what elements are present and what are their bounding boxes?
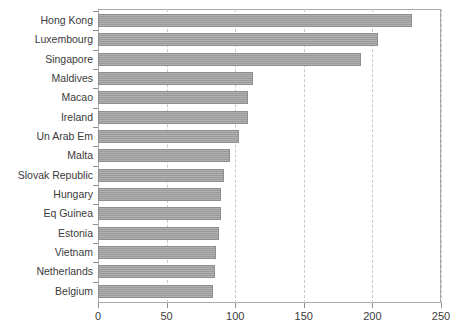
bar-luxembourg [98,33,378,46]
category-label-ireland: Ireland [61,111,93,124]
bar-estonia [98,227,219,240]
bar-netherlands [98,265,215,278]
bar-vietnam [98,246,216,259]
category-tick [93,243,98,244]
bar-slovak-republic [98,169,224,182]
bar-malta [98,149,230,162]
category-label-slovak-republic: Slovak Republic [18,169,93,182]
bar-un-arab-em [98,130,239,143]
value-tick-50 [167,303,168,308]
value-tick-label-250: 250 [432,310,450,323]
bar-belgium [98,285,213,298]
category-tick [93,30,98,31]
value-tick-label-200: 200 [363,310,381,323]
category-label-hong-kong: Hong Kong [40,14,93,27]
category-label-malta: Malta [67,149,93,162]
category-label-estonia: Estonia [58,227,93,240]
bar-ireland [98,111,248,124]
bar-macao [98,91,248,104]
category-tick [93,108,98,109]
category-tick [93,204,98,205]
category-tick [93,262,98,263]
bar-maldives [98,72,253,85]
value-tick-label-100: 100 [226,310,244,323]
bar-hong-kong [98,14,412,27]
gridline-250 [441,9,442,303]
value-tick-label-150: 150 [295,310,313,323]
value-tick-150 [304,303,305,308]
category-label-eq-guinea: Eq Guinea [43,207,93,220]
value-tick-200 [372,303,373,308]
category-tick [93,185,98,186]
category-label-singapore: Singapore [45,53,93,66]
value-tick-label-50: 50 [160,310,172,323]
value-tick-label-0: 0 [95,310,101,323]
category-label-macao: Macao [61,91,93,104]
value-tick-0 [98,303,99,308]
gridline-200 [372,9,373,303]
category-label-un-arab-em: Un Arab Em [36,130,93,143]
category-tick [93,88,98,89]
category-tick [93,11,98,12]
horizontal-bar-chart: Hong KongLuxembourgSingaporeMaldivesMaca… [0,0,461,336]
category-tick [93,166,98,167]
category-label-maldives: Maldives [52,72,93,85]
value-tick-100 [235,303,236,308]
category-label-luxembourg: Luxembourg [35,33,93,46]
bar-hungary [98,188,221,201]
bar-eq-guinea [98,207,221,220]
category-label-vietnam: Vietnam [55,246,93,259]
category-tick [93,146,98,147]
value-tick-250 [441,303,442,308]
category-tick [93,127,98,128]
category-tick [93,224,98,225]
category-tick [93,282,98,283]
category-tick [93,69,98,70]
category-label-belgium: Belgium [55,285,93,298]
bar-singapore [98,53,361,66]
category-label-netherlands: Netherlands [36,265,93,278]
category-tick [93,50,98,51]
category-label-hungary: Hungary [53,188,93,201]
